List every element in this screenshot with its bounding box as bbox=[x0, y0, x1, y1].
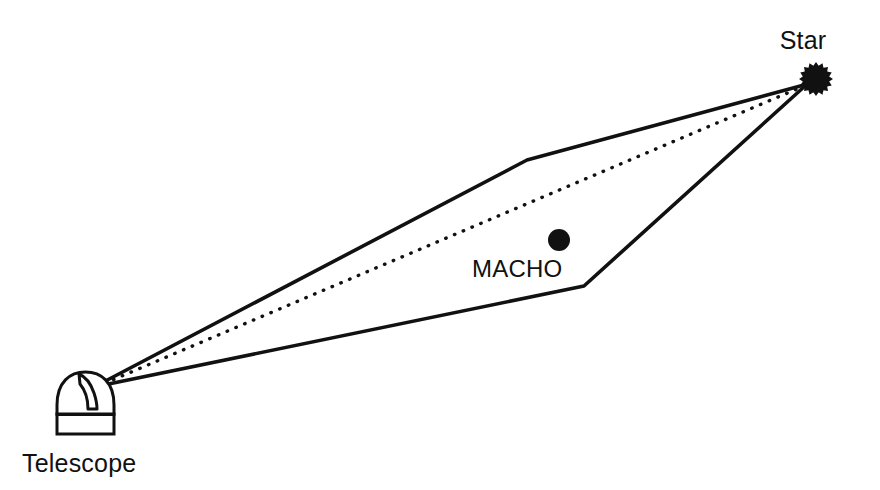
star-label: Star bbox=[780, 26, 827, 54]
macho-dot-icon bbox=[548, 229, 570, 251]
macho-label: MACHO bbox=[472, 255, 562, 282]
telescope-base-shape bbox=[57, 414, 114, 434]
line-of-sight-dotted-line bbox=[96, 86, 804, 387]
microlensing-diagram: Star MACHO Telescope bbox=[0, 0, 880, 490]
diagram-canvas: Star MACHO Telescope bbox=[0, 0, 880, 490]
telescope-label: Telescope bbox=[22, 449, 136, 477]
star-core-shape bbox=[803, 66, 830, 93]
telescope-icon bbox=[57, 372, 114, 434]
star-icon bbox=[799, 62, 833, 96]
